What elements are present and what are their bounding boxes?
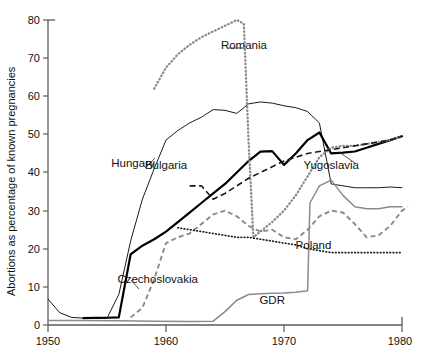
series-label-gdr: GDR: [259, 294, 285, 306]
series-line-poland: [178, 228, 402, 253]
y-axis-title: Abortions as percentage of known pregnan…: [5, 66, 17, 296]
y-label-60: 60: [28, 90, 40, 102]
y-label-70: 70: [28, 52, 40, 64]
series-line-gdr: [48, 180, 402, 321]
y-label-30: 30: [28, 205, 40, 217]
y-label-80: 80: [28, 14, 40, 26]
x-tick-labels: 1950 1960 1970 1980: [36, 335, 412, 347]
y-label-10: 10: [28, 281, 40, 293]
x-label-1970: 1970: [272, 335, 296, 347]
series-label-bulgaria: Bulgaria: [145, 159, 188, 171]
series-label-yugoslavia: Yugoslavia: [303, 159, 359, 171]
x-label-1950: 1950: [36, 335, 60, 347]
y-label-20: 20: [28, 243, 40, 255]
series-layer: [48, 20, 408, 322]
chart-svg: Abortions as percentage of known pregnan…: [0, 0, 431, 351]
y-label-40: 40: [28, 166, 40, 178]
series-label-poland: Poland: [296, 239, 332, 251]
series-line-romania: [154, 20, 402, 237]
y-ticks: [43, 20, 48, 325]
y-label-0: 0: [34, 319, 40, 331]
abortion-rates-line-chart: Abortions as percentage of known pregnan…: [0, 0, 431, 351]
series-label-czechoslovakia: Czechoslovakia: [117, 273, 198, 285]
y-tick-labels: 0 10 20 30 40 50 60 70 80: [28, 14, 40, 331]
x-ticks: [48, 325, 402, 332]
x-label-1980: 1980: [388, 335, 412, 347]
series-label-romania: Romania: [221, 39, 268, 51]
x-label-1960: 1960: [154, 335, 178, 347]
y-label-50: 50: [28, 128, 40, 140]
